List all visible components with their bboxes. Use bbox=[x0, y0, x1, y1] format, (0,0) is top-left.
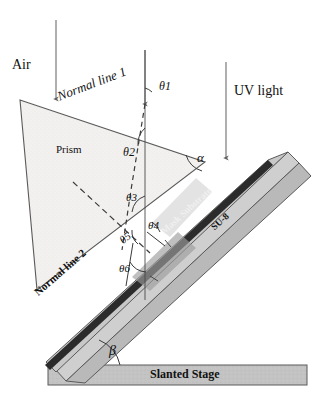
label-theta6: θ6 bbox=[119, 263, 130, 274]
label-theta2: θ2 bbox=[123, 146, 135, 158]
theta1-arc bbox=[145, 88, 152, 92]
label-slanted-stage: Slanted Stage bbox=[150, 368, 220, 380]
label-prism: Prism bbox=[56, 144, 82, 155]
label-uv-light: UV light bbox=[234, 84, 283, 98]
diagram-canvas bbox=[0, 0, 325, 398]
label-theta1: θ1 bbox=[159, 80, 171, 92]
label-air: Air bbox=[12, 58, 31, 72]
label-beta: β bbox=[109, 344, 116, 358]
label-alpha: α bbox=[197, 151, 204, 164]
figure-container: Air UV light Prism Normal line 1 Normal … bbox=[0, 0, 325, 398]
theta5-arc bbox=[132, 230, 138, 244]
label-theta3: θ3 bbox=[126, 192, 137, 203]
label-theta4: θ4 bbox=[148, 220, 159, 231]
